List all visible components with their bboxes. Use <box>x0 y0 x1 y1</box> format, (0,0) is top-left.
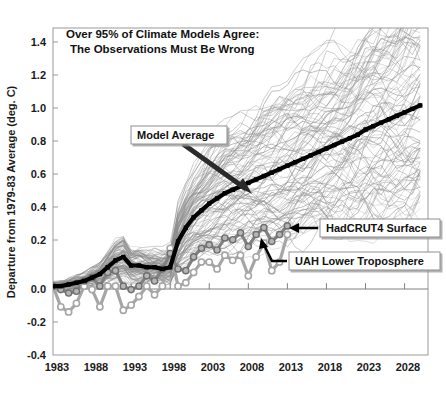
chart-title-line-1: Over 95% of Climate Models Agree: <box>66 28 259 40</box>
y-tick-label: 0.2 <box>31 234 46 246</box>
hadcrut4-label: HadCRUT4 Surface <box>326 222 427 234</box>
x-tick-label: 1983 <box>45 361 69 373</box>
x-tick-label: 2003 <box>201 361 225 373</box>
x-tick-label: 2008 <box>240 361 264 373</box>
y-tick-label: 0.6 <box>31 168 46 180</box>
climate-model-chart: Departure from 1979-83 Average (deg. C) … <box>0 0 446 398</box>
y-tick-label: 0.0 <box>31 283 46 295</box>
model-average-label: Model Average <box>137 129 214 141</box>
y-tick-label: -0.4 <box>27 349 47 361</box>
y-axis-title: Departure from 1979-83 Average (deg. C) <box>5 85 17 298</box>
y-tick-label: 0.8 <box>31 135 46 147</box>
uah-label: UAH Lower Troposphere <box>295 255 424 267</box>
y-tick-label: -0.2 <box>27 316 46 328</box>
x-tick-label: 1998 <box>162 361 186 373</box>
x-tick-label: 2013 <box>279 361 303 373</box>
x-tick-label: 1993 <box>123 361 147 373</box>
y-tick-label: 1.4 <box>31 36 47 48</box>
y-tick-label: 1.0 <box>31 102 46 114</box>
chart-title-line-2: The Observations Must Be Wrong <box>70 43 254 55</box>
y-tick-label: 0.4 <box>31 201 47 213</box>
x-tick-label: 1988 <box>84 361 108 373</box>
x-tick-label: 2018 <box>318 361 342 373</box>
chart-svg: Departure from 1979-83 Average (deg. C) … <box>0 0 446 398</box>
x-tick-label: 2028 <box>396 361 420 373</box>
y-tick-label: 1.2 <box>31 69 46 81</box>
x-tick-label: 2023 <box>357 361 381 373</box>
